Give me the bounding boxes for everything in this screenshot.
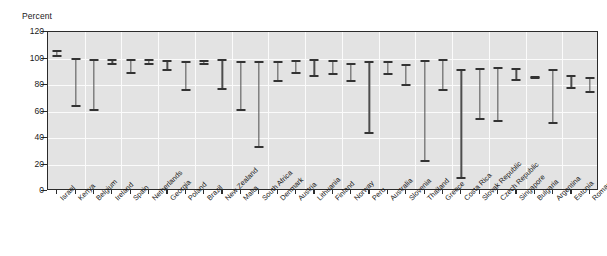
range-bar: [48, 32, 66, 189]
y-axis-tick-label: 60: [4, 106, 44, 116]
range-bar-cap-max: [108, 59, 117, 61]
range-bar-cap-max: [475, 68, 484, 70]
range-bar: [213, 32, 231, 189]
range-bar: [360, 32, 378, 189]
range-bar-cap-min: [53, 55, 62, 57]
range-bar: [489, 32, 507, 189]
range-bar: [397, 32, 415, 189]
range-bar-cap-min: [108, 63, 117, 65]
range-bar-cap-min: [549, 122, 558, 124]
x-axis-tick: [350, 190, 351, 194]
range-bar: [452, 32, 470, 189]
range-bar-cap-min: [567, 87, 576, 89]
range-bar-cap-min: [273, 80, 282, 82]
range-bar: [305, 32, 323, 189]
range-bar: [195, 32, 213, 189]
x-axis-tick: [552, 190, 553, 194]
x-axis-tick: [479, 190, 480, 194]
range-bar-cap-max: [310, 59, 319, 61]
range-bar-cap-max: [347, 63, 356, 65]
range-bar-cap-min: [438, 89, 447, 91]
range-bar-cap-min: [310, 75, 319, 77]
range-bar: [232, 32, 250, 189]
range-bar-stem: [589, 78, 590, 91]
range-bar: [324, 32, 342, 189]
range-bar-cap-min: [145, 63, 154, 65]
range-bar: [287, 32, 305, 189]
range-bar-cap-min: [163, 69, 172, 71]
x-axis-tick: [534, 190, 535, 194]
x-axis-tick: [295, 190, 296, 194]
range-bar-cap-max: [567, 75, 576, 77]
x-axis-tick: [111, 190, 112, 194]
x-axis-tick: [130, 190, 131, 194]
range-bar-stem: [240, 62, 241, 110]
range-bar-cap-max: [236, 61, 245, 63]
range-bar-cap-min: [585, 91, 594, 93]
range-bar: [544, 32, 562, 189]
x-axis-tick: [570, 190, 571, 194]
range-bar: [85, 32, 103, 189]
x-axis-tick: [56, 190, 57, 194]
range-bar-stem: [479, 69, 480, 119]
range-bar: [415, 32, 433, 189]
range-bar-cap-max: [255, 61, 264, 63]
range-bar-stem: [405, 65, 406, 85]
range-bar-stem: [185, 62, 186, 90]
range-bar: [177, 32, 195, 189]
range-bar-cap-max: [181, 61, 190, 63]
range-bar-cap-min: [71, 105, 80, 107]
range-bar-cap-max: [126, 59, 135, 61]
range-bar-stem: [75, 59, 76, 107]
range-bar-cap-max: [218, 59, 227, 61]
x-axis-tick: [203, 190, 204, 194]
range-bar-stem: [314, 60, 315, 76]
range-bar-cap-max: [383, 61, 392, 63]
x-axis-tick: [258, 190, 259, 194]
range-bar: [268, 32, 286, 189]
range-bar-cap-min: [255, 146, 264, 148]
range-bar-cap-min: [126, 72, 135, 74]
x-axis-tick: [424, 190, 425, 194]
range-bar: [342, 32, 360, 189]
range-bar-stem: [424, 61, 425, 160]
x-axis-tick: [221, 190, 222, 194]
range-bar-cap-max: [328, 60, 337, 62]
range-bar-cap-min: [181, 89, 190, 91]
range-bar-cap-max: [71, 58, 80, 60]
x-axis-tick: [387, 190, 388, 194]
x-axis-tick: [497, 190, 498, 194]
y-axis-tick-label: 0: [4, 185, 44, 195]
percent-range-chart: Percent 020406080100120 IsraelKenyaBelgi…: [0, 0, 607, 256]
range-bar-cap-max: [365, 61, 374, 63]
range-bar-cap-max: [493, 67, 502, 69]
range-bar: [158, 32, 176, 189]
x-axis-tick: [93, 190, 94, 194]
x-axis-tick: [405, 190, 406, 194]
range-bar-stem: [350, 64, 351, 81]
range-bar: [581, 32, 598, 189]
range-bar: [434, 32, 452, 189]
y-axis-tick-label: 40: [4, 132, 44, 142]
x-axis-tick: [75, 190, 76, 194]
range-bar-cap-min: [89, 109, 98, 111]
range-bar-stem: [497, 68, 498, 121]
range-bar-cap-max: [273, 61, 282, 63]
range-bar-cap-max: [549, 69, 558, 71]
y-axis-tick-label: 120: [4, 26, 44, 36]
x-axis-tick: [313, 190, 314, 194]
x-axis-tick: [515, 190, 516, 194]
y-axis-tick-label: 80: [4, 79, 44, 89]
range-bar-cap-max: [585, 77, 594, 79]
range-bar-cap-min: [328, 73, 337, 75]
range-bar-cap-min: [291, 72, 300, 74]
range-bar-cap-max: [145, 59, 154, 61]
range-bar-cap-min: [457, 177, 466, 179]
x-axis-tick: [166, 190, 167, 194]
x-axis-tick: [185, 190, 186, 194]
range-bar: [140, 32, 158, 189]
y-axis-tick-label: 100: [4, 53, 44, 63]
range-bar: [470, 32, 488, 189]
range-bar-cap-max: [402, 64, 411, 66]
x-axis-tick: [368, 190, 369, 194]
